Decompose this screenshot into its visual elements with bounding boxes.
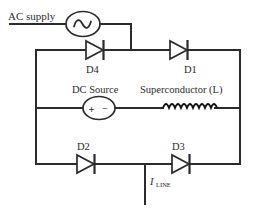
diode-d4-anode-triangle [86,41,103,59]
dc-source-minus-label: − [102,103,108,114]
inductor-superconductor [163,104,217,108]
diode-d2-anode-triangle [77,155,94,173]
schematic-canvas: AC supply D4 D1 [0,0,264,217]
superconductor-label: Superconductor (L) [140,84,223,96]
diode-d1-anode-triangle [170,41,187,59]
ac-supply-right-lead-wire [100,24,131,50]
diode-d3-label: D3 [172,141,185,152]
line-current-label: I [149,176,154,187]
dc-source-label: DC Source [72,84,119,95]
ac-source [66,12,100,37]
dc-source: + − [83,97,115,120]
diode-d1-label: D1 [184,64,197,75]
diode-d1 [170,40,188,60]
dc-source-plus-label: + [89,104,95,115]
diode-d3 [172,154,190,174]
circuit-diagram: AC supply D4 D1 [0,0,264,217]
line-current-subscript-label: LINE [156,181,171,188]
diode-d2 [77,154,95,174]
diode-d3-anode-triangle [172,155,189,173]
coil-turns [163,104,217,108]
diode-d2-label: D2 [77,141,90,152]
diode-d4-label: D4 [86,64,100,75]
diode-d4 [86,40,104,60]
ac-supply-label: AC supply [8,10,56,22]
